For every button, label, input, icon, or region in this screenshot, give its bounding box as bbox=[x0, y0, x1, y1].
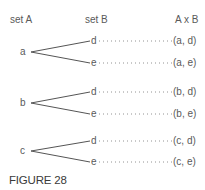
root-c: c bbox=[20, 146, 25, 156]
pair-c-e: (c, e) bbox=[173, 157, 196, 167]
branch-a-e bbox=[31, 52, 90, 63]
header-product: A x B bbox=[175, 15, 198, 25]
pair-c-d: (c, d) bbox=[173, 136, 196, 146]
leaf-d: d bbox=[91, 136, 97, 146]
branch-a-d bbox=[31, 41, 90, 52]
leaf-e: e bbox=[91, 109, 97, 119]
leaf-e: e bbox=[91, 58, 97, 68]
figure-caption: FIGURE 28 bbox=[9, 174, 67, 186]
pair-b-e: (b, e) bbox=[173, 109, 196, 119]
pair-a-d: (a, d) bbox=[173, 36, 196, 46]
header-set-a: set A bbox=[10, 15, 32, 25]
branch-c-d bbox=[31, 141, 90, 151]
branch-c-e bbox=[31, 151, 90, 162]
root-b: b bbox=[20, 98, 26, 108]
leaf-d: d bbox=[91, 36, 97, 46]
pair-a-e: (a, e) bbox=[173, 58, 196, 68]
leaf-e: e bbox=[91, 157, 97, 167]
leaf-d: d bbox=[91, 87, 97, 97]
branch-b-e bbox=[31, 103, 90, 114]
pair-b-d: (b, d) bbox=[173, 87, 196, 97]
root-a: a bbox=[20, 47, 26, 57]
branch-b-d bbox=[31, 92, 90, 103]
header-set-b: set B bbox=[85, 15, 108, 25]
